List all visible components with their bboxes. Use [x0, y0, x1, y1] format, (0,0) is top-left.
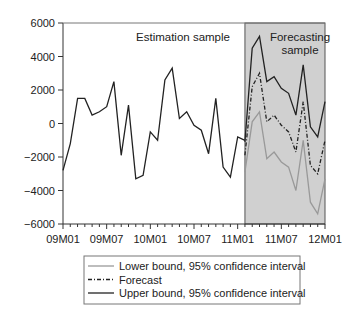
x-tick-label: 09M01	[46, 233, 80, 245]
y-tick-label: −6000	[24, 218, 55, 230]
x-tick-label: 09M07	[90, 233, 124, 245]
legend-label: Lower bound, 95% confidence interval	[119, 260, 306, 272]
x-tick-label: 10M07	[177, 233, 211, 245]
forecasting-sample-label-line2: sample	[281, 44, 318, 56]
chart-legend: Lower bound, 95% confidence intervalFore…	[84, 256, 306, 304]
y-tick-label: −2000	[24, 151, 55, 163]
y-tick-label: −4000	[24, 185, 55, 197]
y-tick-label: 0	[49, 118, 55, 130]
y-tick-label: 6000	[31, 17, 55, 29]
x-tick-label: 10M01	[134, 233, 168, 245]
x-tick-label: 11M01	[221, 233, 254, 245]
y-tick-label: 4000	[31, 51, 55, 63]
y-tick-label: 2000	[31, 84, 55, 96]
x-tick-label: 12M01	[308, 233, 342, 245]
actual-series-line	[63, 68, 245, 179]
legend-label: Forecast	[119, 274, 162, 286]
x-tick-label: 11M07	[265, 233, 298, 245]
forecast-chart: 6000400020000−2000−4000−600009M0109M0710…	[0, 0, 364, 316]
legend-label: Upper bound, 95% confidence interval	[119, 287, 306, 299]
forecasting-sample-label-line1: Forecasting	[270, 31, 330, 43]
estimation-sample-label: Estimation sample	[136, 31, 230, 43]
